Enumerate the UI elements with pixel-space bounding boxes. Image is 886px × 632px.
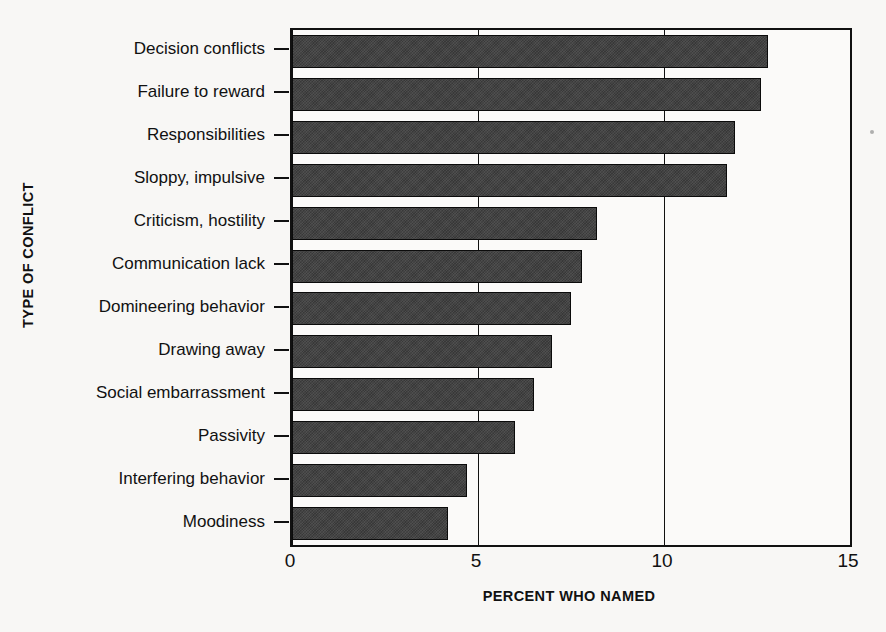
bar <box>292 507 448 540</box>
y-axis-category-label: Moodiness <box>40 513 265 530</box>
y-axis-tick <box>274 220 289 222</box>
bar <box>292 78 761 111</box>
x-axis-title: PERCENT WHO NAMED <box>290 588 848 604</box>
y-axis-tick <box>274 91 289 93</box>
bar <box>292 464 467 497</box>
bar <box>292 35 768 68</box>
y-axis-category-label: Failure to reward <box>40 83 265 100</box>
x-axis-tick-label: 0 <box>285 551 296 570</box>
y-axis-tick <box>274 134 289 136</box>
bar <box>292 207 597 240</box>
x-axis-tick-label: 10 <box>651 551 672 570</box>
bar-chart: TYPE OF CONFLICT Decision conflictsFailu… <box>0 0 886 632</box>
y-axis-category-label: Decision conflicts <box>40 40 265 57</box>
y-axis-category-label: Criticism, hostility <box>40 212 265 229</box>
y-axis-tick <box>274 306 289 308</box>
y-axis-title: TYPE OF CONFLICT <box>20 165 36 345</box>
y-axis-tick <box>274 48 289 50</box>
bar <box>292 421 515 454</box>
y-axis-tick <box>274 478 289 480</box>
y-axis-tick <box>274 435 289 437</box>
y-axis-ticks <box>274 28 290 543</box>
x-axis-tick-labels: 051015 <box>290 551 848 577</box>
bar <box>292 121 735 154</box>
bar <box>292 335 552 368</box>
y-axis-category-label: Drawing away <box>40 341 265 358</box>
x-axis-tick-label: 15 <box>837 551 858 570</box>
y-axis-tick <box>274 521 289 523</box>
y-axis-tick <box>274 177 289 179</box>
y-axis-category-label: Social embarrassment <box>40 384 265 401</box>
scan-artifact-speck <box>870 130 874 134</box>
y-axis-category-label: Sloppy, impulsive <box>40 169 265 186</box>
bar-series <box>292 30 850 545</box>
bar <box>292 378 534 411</box>
plot-area <box>290 28 852 547</box>
x-axis-tick-label: 5 <box>471 551 482 570</box>
y-axis-category-label: Responsibilities <box>40 126 265 143</box>
bar <box>292 292 571 325</box>
y-axis-tick <box>274 392 289 394</box>
y-axis-category-label: Communication lack <box>40 255 265 272</box>
bar <box>292 250 582 283</box>
y-axis-category-label: Passivity <box>40 427 265 444</box>
y-axis-tick <box>274 263 289 265</box>
y-axis-tick <box>274 349 289 351</box>
y-axis-category-label: Interfering behavior <box>40 470 265 487</box>
y-axis-category-labels: Decision conflictsFailure to rewardRespo… <box>40 28 265 543</box>
y-axis-category-label: Domineering behavior <box>40 298 265 315</box>
bar <box>292 164 727 197</box>
